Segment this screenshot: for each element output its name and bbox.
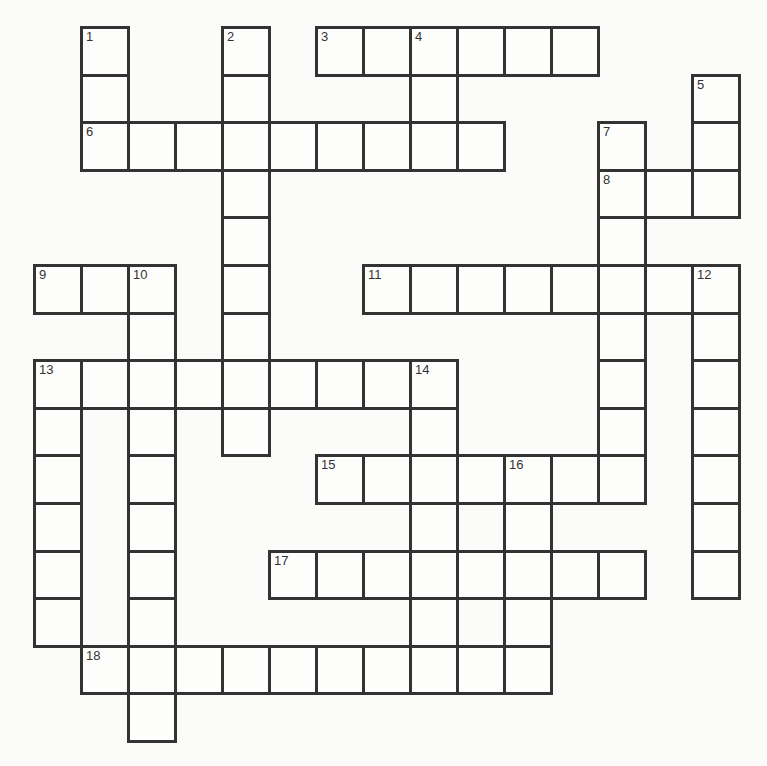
crossword-cell[interactable] — [127, 597, 177, 648]
crossword-cell[interactable] — [127, 121, 177, 172]
crossword-cell[interactable] — [456, 264, 506, 315]
crossword-cell[interactable] — [362, 550, 412, 601]
crossword-cell[interactable] — [550, 26, 600, 77]
crossword-cell[interactable] — [80, 74, 130, 125]
crossword-cell[interactable] — [268, 359, 318, 410]
crossword-cell[interactable] — [221, 264, 271, 315]
crossword-cell[interactable] — [409, 502, 459, 553]
crossword-cell[interactable]: 3 — [315, 26, 365, 77]
crossword-cell[interactable]: 4 — [409, 26, 459, 77]
crossword-cell[interactable] — [221, 169, 271, 220]
crossword-cell[interactable] — [503, 550, 553, 601]
crossword-cell[interactable] — [597, 359, 647, 410]
crossword-cell[interactable]: 16 — [503, 454, 553, 505]
crossword-cell[interactable]: 11 — [362, 264, 412, 315]
crossword-cell[interactable] — [409, 597, 459, 648]
crossword-cell[interactable] — [33, 550, 83, 601]
crossword-cell[interactable] — [691, 169, 741, 220]
crossword-cell[interactable] — [691, 407, 741, 458]
crossword-cell[interactable] — [550, 264, 600, 315]
crossword-cell[interactable] — [33, 597, 83, 648]
crossword-cell[interactable] — [221, 359, 271, 410]
crossword-cell[interactable] — [362, 359, 412, 410]
crossword-cell[interactable] — [221, 74, 271, 125]
crossword-cell[interactable] — [691, 502, 741, 553]
crossword-cell[interactable] — [174, 359, 224, 410]
crossword-cell[interactable] — [221, 645, 271, 696]
crossword-cell[interactable] — [456, 26, 506, 77]
crossword-cell[interactable]: 6 — [80, 121, 130, 172]
crossword-cell[interactable] — [409, 264, 459, 315]
crossword-cell[interactable] — [362, 645, 412, 696]
crossword-cell[interactable] — [362, 454, 412, 505]
crossword-cell[interactable] — [127, 692, 177, 743]
crossword-cell[interactable] — [503, 597, 553, 648]
crossword-cell[interactable] — [221, 407, 271, 458]
crossword-cell[interactable] — [33, 407, 83, 458]
crossword-cell[interactable] — [127, 454, 177, 505]
crossword-cell[interactable] — [409, 454, 459, 505]
crossword-cell[interactable] — [409, 74, 459, 125]
crossword-cell[interactable]: 12 — [691, 264, 741, 315]
crossword-cell[interactable] — [597, 550, 647, 601]
crossword-cell[interactable] — [691, 312, 741, 363]
crossword-cell[interactable] — [127, 359, 177, 410]
crossword-cell[interactable] — [221, 312, 271, 363]
crossword-cell[interactable] — [691, 454, 741, 505]
crossword-cell[interactable] — [127, 407, 177, 458]
crossword-cell[interactable] — [597, 407, 647, 458]
crossword-cell[interactable]: 13 — [33, 359, 83, 410]
crossword-cell[interactable]: 14 — [409, 359, 459, 410]
crossword-cell[interactable] — [268, 121, 318, 172]
crossword-cell[interactable] — [503, 264, 553, 315]
crossword-cell[interactable] — [315, 550, 365, 601]
crossword-cell[interactable]: 7 — [597, 121, 647, 172]
crossword-cell[interactable]: 10 — [127, 264, 177, 315]
crossword-cell[interactable] — [597, 454, 647, 505]
crossword-cell[interactable] — [362, 121, 412, 172]
crossword-cell[interactable] — [691, 121, 741, 172]
crossword-cell[interactable]: 15 — [315, 454, 365, 505]
crossword-cell[interactable] — [597, 312, 647, 363]
crossword-cell[interactable] — [456, 454, 506, 505]
crossword-cell[interactable] — [644, 264, 694, 315]
crossword-cell[interactable] — [503, 26, 553, 77]
crossword-cell[interactable] — [268, 645, 318, 696]
crossword-cell[interactable]: 1 — [80, 26, 130, 77]
crossword-cell[interactable] — [456, 550, 506, 601]
crossword-cell[interactable] — [691, 550, 741, 601]
crossword-cell[interactable] — [315, 645, 365, 696]
crossword-cell[interactable]: 8 — [597, 169, 647, 220]
crossword-cell[interactable] — [503, 645, 553, 696]
crossword-cell[interactable] — [409, 645, 459, 696]
crossword-cell[interactable] — [644, 169, 694, 220]
crossword-cell[interactable] — [127, 645, 177, 696]
crossword-cell[interactable] — [456, 121, 506, 172]
crossword-cell[interactable] — [127, 502, 177, 553]
crossword-cell[interactable] — [503, 502, 553, 553]
crossword-cell[interactable] — [221, 121, 271, 172]
crossword-cell[interactable] — [550, 454, 600, 505]
crossword-cell[interactable]: 5 — [691, 74, 741, 125]
crossword-cell[interactable] — [362, 26, 412, 77]
crossword-cell[interactable] — [127, 312, 177, 363]
crossword-cell[interactable] — [33, 454, 83, 505]
crossword-cell[interactable] — [597, 216, 647, 267]
crossword-cell[interactable] — [409, 550, 459, 601]
crossword-cell[interactable]: 17 — [268, 550, 318, 601]
crossword-cell[interactable]: 2 — [221, 26, 271, 77]
crossword-cell[interactable] — [550, 550, 600, 601]
crossword-cell[interactable] — [127, 550, 177, 601]
crossword-cell[interactable] — [315, 359, 365, 410]
crossword-cell[interactable] — [221, 216, 271, 267]
crossword-cell[interactable] — [80, 264, 130, 315]
crossword-cell[interactable] — [315, 121, 365, 172]
crossword-cell[interactable] — [80, 359, 130, 410]
crossword-cell[interactable] — [174, 645, 224, 696]
crossword-cell[interactable] — [691, 359, 741, 410]
crossword-cell[interactable] — [174, 121, 224, 172]
crossword-cell[interactable] — [597, 264, 647, 315]
crossword-cell[interactable]: 9 — [33, 264, 83, 315]
crossword-cell[interactable]: 18 — [80, 645, 130, 696]
crossword-cell[interactable] — [409, 121, 459, 172]
